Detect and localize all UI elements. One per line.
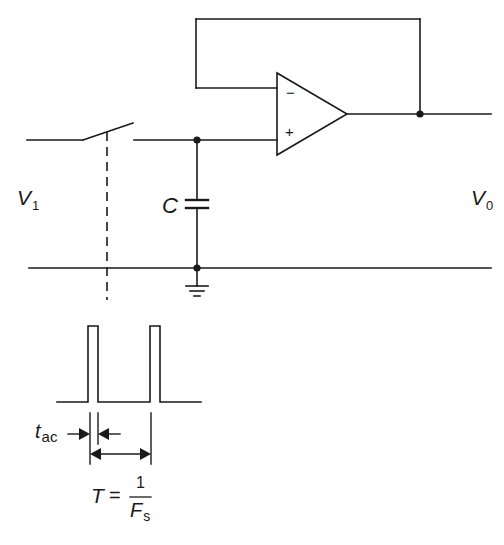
opamp-minus-sign: − — [286, 84, 295, 101]
junction-dot-output — [416, 110, 423, 117]
opamp — [196, 19, 491, 155]
label-equals: = — [109, 484, 121, 507]
label-period-t: T — [91, 484, 104, 508]
label-denominator-fs: Fs — [130, 499, 150, 522]
capacitor — [186, 140, 208, 268]
label-v0: V0 — [471, 186, 493, 210]
pulse-waveform — [57, 326, 201, 402]
opamp-plus-sign: + — [285, 123, 294, 140]
circuit-drawing — [0, 0, 504, 545]
switch — [27, 123, 277, 140]
label-capacitor: C — [162, 193, 178, 219]
junction-dot-ground — [193, 264, 200, 271]
ground-icon — [186, 268, 208, 296]
junction-dot-input — [193, 136, 200, 143]
label-numerator: 1 — [136, 474, 145, 492]
label-v1: V1 — [17, 186, 39, 210]
sample-and-hold-diagram: V1 V0 C − + tac T = 1 Fs — [0, 0, 504, 545]
label-t-ac: tac — [35, 420, 57, 443]
